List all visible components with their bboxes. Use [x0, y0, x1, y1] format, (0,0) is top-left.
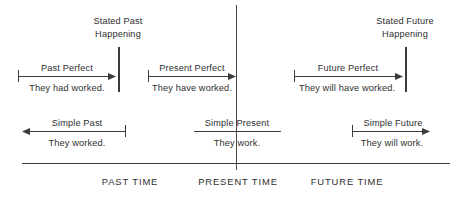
- past-perfect-sentence: They had worked.: [29, 83, 104, 93]
- simple-past-arrow-head: [22, 128, 30, 135]
- simple-present-sentence: They work.: [214, 138, 260, 148]
- future-perfect-tense-label: Future Perfect: [318, 63, 379, 73]
- simple-past-sentence: They worked.: [49, 138, 106, 148]
- simple-present-tense-label: Simple Present: [205, 118, 270, 128]
- stated-future-happening-label-line1: Stated Future: [376, 16, 434, 26]
- timeline-svg: Stated Past Happening Stated Future Happ…: [0, 0, 471, 197]
- simple-future-tense-label: Simple Future: [363, 118, 422, 128]
- axis-label-future-time: FUTURE TIME: [311, 176, 384, 187]
- past-perfect-tense-label: Past Perfect: [41, 63, 93, 73]
- tense-timeline-diagram: Stated Past Happening Stated Future Happ…: [0, 0, 471, 197]
- stated-past-happening-label-line2: Happening: [95, 29, 141, 39]
- present-perfect-arrow-head: [228, 73, 236, 80]
- stated-past-happening-label-line1: Stated Past: [93, 16, 142, 26]
- simple-past-tense-label: Simple Past: [52, 118, 103, 128]
- present-perfect-sentence: They have worked.: [152, 83, 232, 93]
- past-perfect-arrow-head: [108, 73, 116, 80]
- simple-future-arrow-head: [422, 128, 430, 135]
- axis-label-present-time: PRESENT TIME: [198, 176, 278, 187]
- future-perfect-arrow-head: [395, 73, 403, 80]
- axis-label-past-time: PAST TIME: [102, 176, 159, 187]
- future-perfect-sentence: They will have worked.: [299, 83, 395, 93]
- stated-future-happening-label-line2: Happening: [382, 29, 428, 39]
- simple-future-sentence: They will work.: [361, 138, 424, 148]
- present-perfect-tense-label: Present Perfect: [159, 63, 225, 73]
